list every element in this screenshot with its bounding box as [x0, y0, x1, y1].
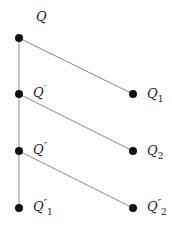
- label-Q: Q: [36, 9, 47, 24]
- node-Qpp1: [15, 204, 23, 212]
- label-Q1: Q1: [147, 86, 163, 104]
- label-Q-double-prime-1: Q″1: [33, 198, 53, 217]
- node-Qpp2: [129, 204, 137, 212]
- label-Q-prime: Q′: [33, 84, 46, 100]
- label-Q-double-prime: Q″: [33, 141, 47, 157]
- node-Q: [15, 34, 23, 42]
- label-Q-double-prime-2: Q″2: [147, 198, 167, 217]
- node-Qpp: [15, 147, 23, 155]
- label-Q2: Q2: [147, 143, 163, 161]
- edges: [19, 38, 133, 208]
- tree-diagram: [0, 0, 172, 229]
- node-Q2: [129, 147, 137, 155]
- node-Q1: [129, 90, 137, 98]
- node-Qp: [15, 90, 23, 98]
